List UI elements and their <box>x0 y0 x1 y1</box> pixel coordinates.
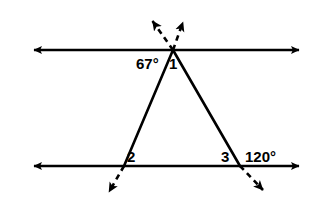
right-transversal-segment <box>173 50 240 166</box>
angle-label-120-degrees: 120° <box>245 149 276 164</box>
lower-right-dashed-ray <box>240 166 263 190</box>
angle-label-1: 1 <box>169 56 177 71</box>
geometry-figure: 67° 1 2 3 120° <box>0 0 332 214</box>
geometry-canvas <box>0 0 332 214</box>
angle-label-3: 3 <box>221 149 229 164</box>
angle-label-67-degrees: 67° <box>136 56 159 71</box>
apex-upper-left-dashed-ray <box>153 21 174 50</box>
angle-label-2: 2 <box>127 149 135 164</box>
apex-upper-right-dashed-ray <box>173 22 183 50</box>
lower-left-dashed-ray <box>109 166 124 192</box>
